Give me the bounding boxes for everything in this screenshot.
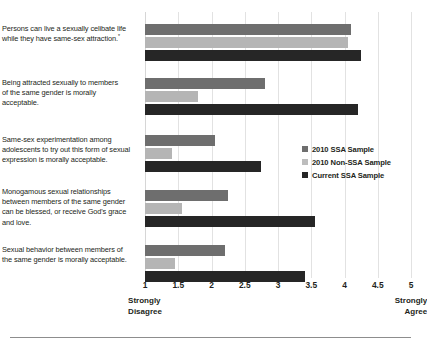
bar-series-2-category-1 — [145, 104, 358, 115]
category-label-2: Same-sex experimentation among adolescen… — [2, 135, 132, 166]
legend-swatch-icon-current-ssa-sample — [302, 172, 308, 178]
category-label-0-line-2: while they have same-sex attraction. — [2, 34, 118, 43]
x-tick-label-1: 1 — [143, 280, 148, 290]
category-label-1-line-3: acceptable. — [2, 98, 39, 107]
bar-group-0 — [145, 24, 411, 61]
bar-group-3 — [145, 190, 411, 227]
category-label-2-line-1: Same-sex experimentation among — [2, 135, 112, 144]
bar-series-0-category-3 — [145, 190, 228, 201]
bar-series-1-category-1 — [145, 91, 198, 102]
x-axis-tick-labels: 1 1.5 2 2.5 3 3.5 4 4.5 5 — [145, 280, 411, 294]
category-label-4-line-1: Sexual behavior between members of — [2, 245, 123, 254]
footer-divider — [10, 337, 411, 338]
category-label-2-line-3: expression is morally acceptable. — [2, 155, 108, 164]
bar-series-2-category-2 — [145, 161, 261, 172]
bar-group-4 — [145, 245, 411, 282]
x-tick-label-1-5: 1.5 — [172, 280, 184, 290]
category-label-3-line-2: between members of the same gender — [2, 197, 125, 206]
category-label-4: Sexual behavior between members of the s… — [2, 245, 132, 265]
category-label-0-line-1: Persons can live a sexually celibate lif… — [2, 24, 126, 33]
bar-group-1 — [145, 78, 411, 115]
bar-series-1-category-4 — [145, 258, 175, 269]
category-label-column: Persons can live a sexually celibate lif… — [0, 12, 140, 278]
category-label-3-line-3: can be blessed, or receive God's grace — [2, 207, 126, 216]
bar-series-2-category-0 — [145, 50, 361, 61]
bar-series-2-category-3 — [145, 216, 315, 227]
category-label-0-footnote-marker: * — [118, 33, 120, 39]
bar-series-0-category-4 — [145, 245, 225, 256]
category-label-3-line-1: Monogamous sexual relationships — [2, 187, 111, 196]
legend-item-2010-non-ssa-sample: 2010 Non-SSA Sample — [302, 156, 418, 168]
x-tick-label-2-5: 2.5 — [239, 280, 251, 290]
bar-series-0-category-1 — [145, 78, 265, 89]
legend-label-2010-ssa-sample: 2010 SSA Sample — [312, 145, 374, 154]
x-tick-label-4: 4 — [342, 280, 347, 290]
legend-item-2010-ssa-sample: 2010 SSA Sample — [302, 143, 418, 155]
bar-series-1-category-3 — [145, 203, 182, 214]
x-tick-label-5: 5 — [409, 280, 414, 290]
x-tick-label-2: 2 — [209, 280, 214, 290]
legend-swatch-icon-2010-non-ssa-sample — [302, 159, 308, 165]
axis-endcap-strongly-disagree: Strongly Disagree — [128, 296, 162, 317]
legend-label-2010-non-ssa-sample: 2010 Non-SSA Sample — [312, 158, 391, 167]
bar-series-0-category-0 — [145, 24, 351, 35]
category-label-3: Monogamous sexual relationships between … — [2, 187, 132, 228]
category-label-4-line-2: the same gender is morally acceptable. — [2, 255, 127, 264]
category-label-1: Being attracted sexually to members of t… — [2, 78, 132, 109]
category-label-2-line-2: adolescents to try out this form of sexu… — [2, 145, 130, 154]
legend: 2010 SSA Sample 2010 Non-SSA Sample Curr… — [302, 143, 418, 182]
axis-endcap-low-line-2: Disagree — [128, 307, 162, 316]
x-tick-label-3: 3 — [276, 280, 281, 290]
bar-series-1-category-2 — [145, 148, 172, 159]
legend-label-current-ssa-sample: Current SSA Sample — [312, 171, 384, 180]
category-label-0: Persons can live a sexually celibate lif… — [2, 24, 132, 44]
legend-swatch-icon-2010-ssa-sample — [302, 146, 308, 152]
bar-series-0-category-2 — [145, 135, 215, 146]
axis-endcap-strongly-agree: Strongly Agree — [395, 296, 427, 317]
category-label-1-line-1: Being attracted sexually to members — [2, 78, 118, 87]
category-label-3-line-4: and love. — [2, 218, 31, 227]
bar-series-1-category-0 — [145, 37, 348, 48]
axis-endcap-high-line-2: Agree — [405, 307, 427, 316]
axis-endcap-low-line-1: Strongly — [128, 296, 160, 305]
category-label-1-line-2: of the same gender is morally — [2, 88, 96, 97]
axis-endcap-high-line-1: Strongly — [395, 296, 427, 305]
x-tick-label-4-5: 4.5 — [372, 280, 384, 290]
legend-item-current-ssa-sample: Current SSA Sample — [302, 169, 418, 181]
x-tick-label-3-5: 3.5 — [305, 280, 317, 290]
